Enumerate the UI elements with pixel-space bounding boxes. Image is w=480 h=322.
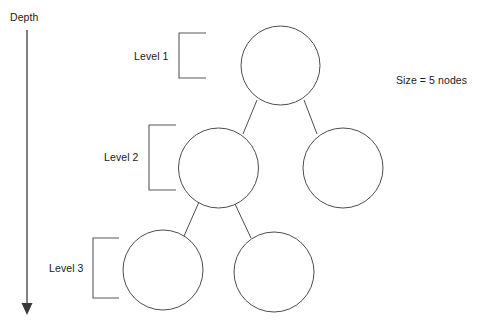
edge-left-child-to-right-leaf: [235, 204, 251, 238]
depth-axis-label: Depth: [10, 11, 39, 23]
tree-diagram: Depth Level 1 Level 2 Level 3 Size = 5 n…: [0, 0, 480, 322]
level-1-label: Level 1: [134, 50, 169, 62]
level-2-label: Level 2: [104, 151, 139, 163]
level-3-bracket: [93, 238, 119, 298]
edge-root-to-right-child: [304, 100, 317, 134]
size-annotation-label: Size = 5 nodes: [396, 74, 467, 86]
tree-node-right-child: [303, 128, 383, 208]
tree-node-left-leaf: [123, 230, 203, 310]
tree-node-right-leaf: [234, 232, 314, 312]
depth-axis-arrow: [22, 30, 33, 315]
level-3-label: Level 3: [49, 262, 84, 274]
level-2-bracket: [149, 125, 176, 190]
tree-node-root: [241, 26, 320, 105]
level-1-bracket: [179, 33, 206, 78]
edge-left-child-to-left-leaf: [184, 202, 199, 236]
edge-root-to-left-child: [243, 100, 257, 134]
tree-node-left-child: [179, 128, 259, 208]
